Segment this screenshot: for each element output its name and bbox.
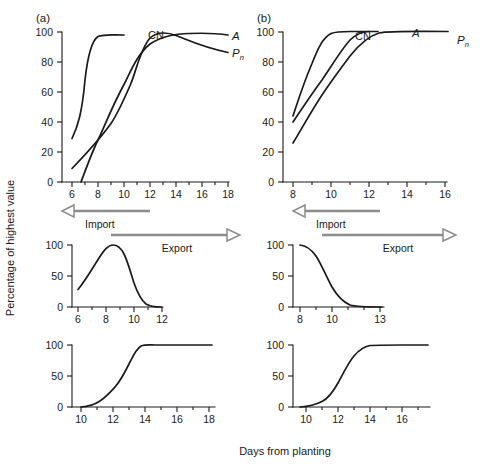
svg-text:10: 10: [118, 188, 130, 200]
curve-a-top-a: [81, 33, 228, 182]
svg-text:8: 8: [297, 313, 303, 325]
b-top-x-tick-labels: 8 10 12 14 16: [290, 188, 451, 200]
a-top-y-ticks: [57, 32, 62, 182]
b-mid-x-ticks: [300, 307, 380, 312]
export-label-a: Export: [162, 242, 192, 254]
export-arrow-b: Export: [322, 229, 456, 254]
b-bot-y-tick-labels: 0 50 100: [266, 339, 284, 413]
b-top-x-ticks: [293, 182, 445, 187]
svg-text:6: 6: [75, 313, 81, 325]
curve-a-bottom-export: [81, 345, 212, 407]
label-a-top-a: A: [231, 30, 240, 42]
svg-text:14: 14: [139, 413, 151, 425]
a-top-y-tick-labels: 0 20 40 60 80 100: [35, 26, 53, 188]
svg-text:60: 60: [41, 86, 53, 98]
svg-text:100: 100: [35, 26, 53, 38]
export-arrow-a: Export: [111, 229, 240, 254]
svg-text:8: 8: [103, 313, 109, 325]
svg-text:12: 12: [363, 188, 375, 200]
svg-text:8: 8: [290, 188, 296, 200]
flow-arrows-b: Import Export: [293, 205, 456, 254]
svg-text:0: 0: [57, 401, 63, 413]
svg-text:50: 50: [272, 370, 284, 382]
svg-text:100: 100: [266, 339, 284, 351]
svg-text:0: 0: [278, 301, 284, 313]
b-mid-y-ticks: [288, 245, 293, 307]
a-mid-y-tick-labels: 0 50 100: [45, 239, 63, 313]
b-top-y-ticks: [278, 32, 283, 182]
figure-container: (a) (b) Percentage of highest value Days…: [0, 0, 483, 475]
b-bot-x-tick-labels: 10 12 14 16: [300, 413, 408, 425]
label-a-top-cn: CN: [148, 29, 164, 41]
plot-a-middle: 0 50 100 6 8 10 12: [45, 239, 168, 325]
svg-text:50: 50: [51, 370, 63, 382]
curve-a-top-cn: [72, 35, 124, 139]
svg-text:50: 50: [51, 270, 63, 282]
plot-b-bottom: 0 50 100 10 12 14 16: [266, 339, 430, 425]
svg-text:6: 6: [69, 188, 75, 200]
import-label-a: Import: [85, 218, 115, 230]
plant-carbon-partitioning-figure: (a) (b) Percentage of highest value Days…: [0, 0, 483, 475]
svg-text:14: 14: [401, 188, 413, 200]
svg-text:10: 10: [128, 313, 140, 325]
a-bot-x-tick-labels: 10 12 14 16 18: [75, 413, 215, 425]
svg-text:100: 100: [45, 239, 63, 251]
label-a-top-pn: Pn: [232, 47, 244, 62]
svg-text:10: 10: [325, 188, 337, 200]
a-mid-x-tick-labels: 6 8 10 12: [75, 313, 168, 325]
a-mid-y-ticks: [67, 245, 72, 307]
b-bot-x-ticks: [306, 407, 418, 412]
import-arrow-b: Import: [293, 205, 380, 230]
svg-text:10: 10: [300, 413, 312, 425]
svg-text:10: 10: [326, 313, 338, 325]
svg-text:20: 20: [41, 146, 53, 158]
import-arrow-a: Import: [62, 205, 150, 230]
svg-text:12: 12: [107, 413, 119, 425]
svg-text:50: 50: [272, 270, 284, 282]
label-b-top-pn: Pn: [457, 34, 469, 49]
svg-text:16: 16: [171, 413, 183, 425]
a-top-x-ticks: [72, 182, 228, 187]
svg-text:10: 10: [75, 413, 87, 425]
svg-text:12: 12: [144, 188, 156, 200]
export-label-b: Export: [383, 242, 413, 254]
svg-text:16: 16: [439, 188, 451, 200]
panel-b-letter: (b): [257, 12, 271, 24]
svg-text:100: 100: [266, 239, 284, 251]
svg-text:0: 0: [47, 176, 53, 188]
svg-text:18: 18: [222, 188, 234, 200]
svg-text:8: 8: [95, 188, 101, 200]
a-top-x-tick-labels: 6 8 10 12 14 16 18: [69, 188, 234, 200]
curve-a-middle-import-rate: [78, 245, 161, 307]
svg-text:12: 12: [156, 313, 168, 325]
a-bot-y-tick-labels: 0 50 100: [45, 339, 63, 413]
b-mid-y-tick-labels: 0 50 100: [266, 239, 284, 313]
svg-text:13: 13: [374, 313, 386, 325]
label-b-top-a: A: [411, 27, 420, 39]
curve-b-bottom-export: [300, 345, 428, 407]
b-bot-y-ticks: [288, 345, 293, 407]
svg-text:0: 0: [268, 176, 274, 188]
a-mid-x-ticks: [78, 307, 162, 312]
svg-text:40: 40: [262, 116, 274, 128]
import-label-b: Import: [316, 218, 346, 230]
svg-text:80: 80: [262, 56, 274, 68]
svg-text:18: 18: [203, 413, 215, 425]
curve-b-middle-import-rate: [300, 245, 382, 307]
svg-text:0: 0: [57, 301, 63, 313]
flow-arrows-a: Import Export: [62, 205, 240, 254]
label-b-top-cn: CN: [355, 30, 371, 42]
panel-a-letter: (a): [36, 12, 50, 24]
svg-text:16: 16: [396, 413, 408, 425]
curve-b-top-cn: [293, 32, 369, 117]
svg-text:40: 40: [41, 116, 53, 128]
plot-a-bottom: 0 50 100 10 12 14 16 18: [45, 339, 215, 425]
y-axis-title: Percentage of highest value: [4, 180, 16, 316]
x-axis-title: Days from planting: [239, 445, 331, 457]
svg-text:20: 20: [262, 146, 274, 158]
svg-text:14: 14: [364, 413, 376, 425]
svg-text:12: 12: [332, 413, 344, 425]
svg-text:100: 100: [256, 26, 274, 38]
svg-text:0: 0: [278, 401, 284, 413]
svg-text:80: 80: [41, 56, 53, 68]
